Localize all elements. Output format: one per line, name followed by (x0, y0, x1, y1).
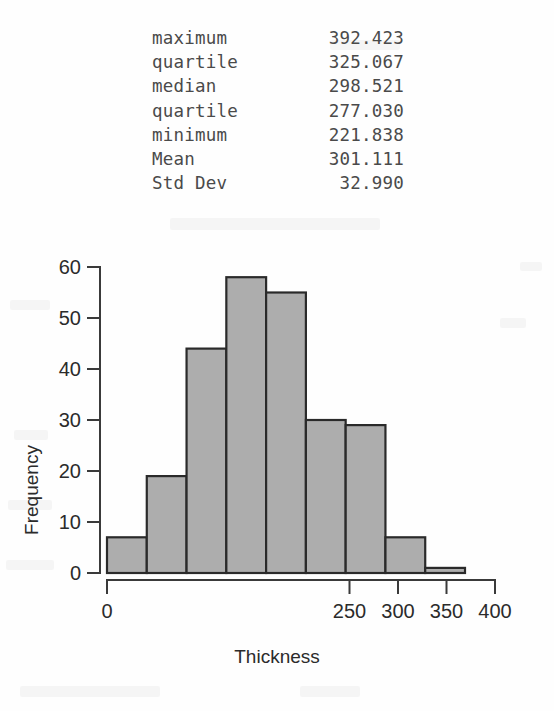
stat-label: minimum (152, 123, 312, 147)
x-tick-label: 350 (430, 600, 463, 622)
bar-group (107, 277, 465, 573)
stat-label: Std Dev (152, 171, 312, 195)
stat-label: quartile (152, 50, 312, 74)
histogram-bar (226, 277, 266, 573)
x-tick-label: 400 (478, 600, 511, 622)
stat-row: maximum392.423 (152, 26, 404, 50)
histogram-chart: 0102030405060 0250300350400 Frequency Th… (0, 240, 554, 690)
stat-label: median (152, 74, 312, 98)
y-tick-label: 0 (70, 562, 81, 584)
stat-value: 298.521 (312, 74, 404, 98)
stat-value: 221.838 (312, 123, 404, 147)
x-axis-title: Thickness (234, 646, 320, 667)
stat-label: Mean (152, 147, 312, 171)
histogram-bar (306, 420, 346, 573)
stat-row: minimum221.838 (152, 123, 404, 147)
histogram-bar (107, 537, 147, 573)
stat-row: quartile325.067 (152, 50, 404, 74)
histogram-bar (147, 476, 187, 573)
stat-value: 277.030 (312, 99, 404, 123)
y-axis: 0102030405060 (59, 256, 100, 584)
stat-row: quartile277.030 (152, 99, 404, 123)
x-axis: 0250300350400 (101, 580, 511, 622)
x-tick-label: 250 (333, 600, 366, 622)
histogram-page: maximum392.423 quartile325.067 median298… (0, 0, 554, 711)
histogram-bar (385, 537, 425, 573)
stat-row: median298.521 (152, 74, 404, 98)
stat-row: Std Dev32.990 (152, 171, 404, 195)
stat-value: 32.990 (312, 171, 404, 195)
y-tick-label: 40 (59, 358, 81, 380)
y-tick-label: 30 (59, 409, 81, 431)
histogram-bar (266, 293, 306, 574)
stat-label: maximum (152, 26, 312, 50)
histogram-bar (346, 425, 386, 573)
histogram-bar (425, 568, 465, 573)
histogram-svg: 0102030405060 0250300350400 Frequency Th… (0, 240, 554, 690)
y-tick-label: 10 (59, 511, 81, 533)
summary-statistics: maximum392.423 quartile325.067 median298… (152, 26, 404, 195)
stat-value: 301.111 (312, 147, 404, 171)
histogram-bar (187, 349, 227, 573)
y-tick-label: 20 (59, 460, 81, 482)
y-tick-label: 50 (59, 307, 81, 329)
scan-artifact (170, 218, 380, 230)
y-axis-title: Frequency (21, 445, 42, 535)
stat-label: quartile (152, 99, 312, 123)
x-tick-label: 0 (101, 600, 112, 622)
stat-value: 325.067 (312, 50, 404, 74)
stat-row: Mean301.111 (152, 147, 404, 171)
x-tick-label: 300 (381, 600, 414, 622)
stat-value: 392.423 (312, 26, 404, 50)
y-tick-label: 60 (59, 256, 81, 278)
